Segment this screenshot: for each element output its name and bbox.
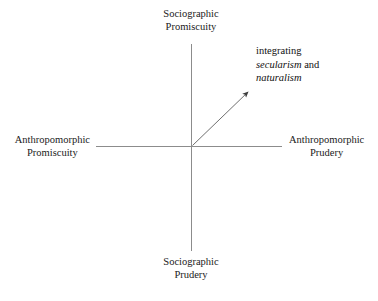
annotation-line-2: secularism and xyxy=(256,58,319,72)
annotation-line-3: naturalism xyxy=(256,71,319,85)
axis-label-right: Anthropomorphic Prudery xyxy=(289,133,364,159)
axis-label-left-line1: Anthropomorphic xyxy=(15,133,90,146)
axis-label-top-line2: Promiscuity xyxy=(163,20,218,33)
axis-label-left: Anthropomorphic Promiscuity xyxy=(15,133,90,159)
annotation-term-secularism: secularism xyxy=(256,59,302,70)
axis-label-bottom: Sociographic Prudery xyxy=(163,255,218,281)
axis-label-right-line1: Anthropomorphic xyxy=(289,133,364,146)
axis-label-bottom-line2: Prudery xyxy=(163,268,218,281)
axis-label-left-line2: Promiscuity xyxy=(15,146,90,159)
axis-label-bottom-line1: Sociographic xyxy=(163,255,218,268)
annotation-text: integrating secularism and naturalism xyxy=(256,44,319,85)
axis-label-top-line1: Sociographic xyxy=(163,7,218,20)
annotation-line-1: integrating xyxy=(256,44,319,58)
axis-label-right-line2: Prudery xyxy=(289,146,364,159)
axis-label-top: Sociographic Promiscuity xyxy=(163,7,218,33)
annotation-conjunction: and xyxy=(302,59,320,70)
annotation-term-naturalism: naturalism xyxy=(256,72,302,83)
quadrant-diagram: Sociographic Promiscuity Sociographic Pr… xyxy=(0,0,378,301)
